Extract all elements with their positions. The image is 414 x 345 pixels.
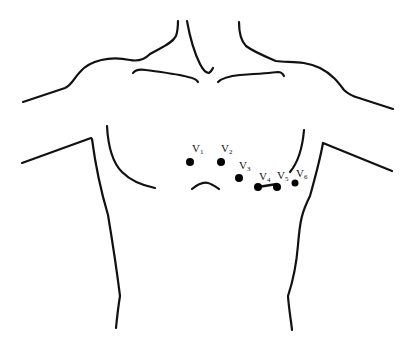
electrode-v3 (235, 174, 243, 182)
left-pectoral-curve (107, 126, 155, 188)
torso-outline (0, 0, 414, 345)
ecg-chest-lead-diagram: V1 V2 V3 V4 V5 V6 (0, 0, 414, 345)
left-shoulder-outline (23, 21, 178, 102)
left-clavicle (133, 70, 198, 82)
xiphoid-curve (192, 183, 219, 189)
left-arm-outline (22, 138, 120, 328)
electrode-v2 (217, 158, 225, 166)
electrode-v5 (273, 183, 281, 191)
label-v2: V2 (221, 143, 232, 156)
electrode-v1 (186, 158, 194, 166)
label-v6: V6 (296, 168, 307, 181)
electrode-v4 (254, 183, 262, 191)
right-clavicle (218, 72, 284, 82)
label-v5: V5 (277, 170, 288, 183)
label-v4: V4 (259, 171, 270, 184)
label-v3: V3 (239, 160, 250, 173)
label-v1: V1 (192, 143, 203, 156)
right-shoulder-outline (239, 22, 393, 109)
neck-line (187, 21, 213, 73)
right-pectoral-curve (290, 130, 304, 172)
